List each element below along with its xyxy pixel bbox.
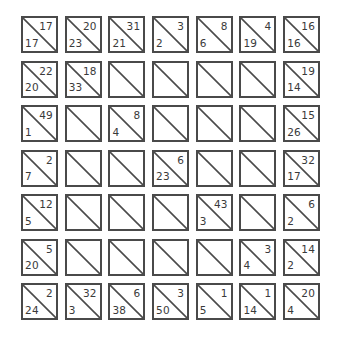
clue-top-right: 3: [177, 288, 184, 299]
clue-top-right: 32: [301, 155, 315, 166]
grid-cell-r1-c5[interactable]: 86: [196, 16, 233, 53]
clue-top-right: 15: [301, 110, 315, 121]
grid-cell-r3-c5[interactable]: [196, 105, 233, 142]
grid-cell-r4-c6[interactable]: [239, 150, 276, 187]
diagonal-divider-icon: [241, 152, 274, 185]
diagonal-divider-icon: [198, 152, 231, 185]
clue-bottom-left: 2: [156, 38, 163, 49]
clue-top-right: 3: [177, 21, 184, 32]
grid-cell-r7-c1[interactable]: 224: [21, 283, 58, 320]
clue-bottom-left: 5: [25, 216, 32, 227]
grid-cell-r4-c4[interactable]: 623: [152, 150, 189, 187]
puzzle-grid: 1717202331213286419161622201833191449184…: [21, 16, 320, 320]
grid-cell-r4-c3[interactable]: [108, 150, 145, 187]
clue-bottom-left: 17: [287, 171, 301, 182]
grid-cell-r7-c6[interactable]: 114: [239, 283, 276, 320]
grid-cell-r7-c4[interactable]: 350: [152, 283, 189, 320]
clue-bottom-left: 4: [287, 305, 294, 316]
clue-bottom-left: 17: [25, 38, 39, 49]
clue-bottom-left: 2: [287, 216, 294, 227]
grid-cell-r6-c4[interactable]: [152, 239, 189, 276]
grid-cell-r6-c5[interactable]: [196, 239, 233, 276]
clue-bottom-left: 38: [112, 305, 126, 316]
clue-bottom-left: 4: [112, 127, 119, 138]
grid-cell-r7-c5[interactable]: 15: [196, 283, 233, 320]
clue-bottom-left: 19: [243, 38, 257, 49]
grid-cell-r1-c1[interactable]: 1717: [21, 16, 58, 53]
grid-cell-r2-c5[interactable]: [196, 61, 233, 98]
grid-cell-r1-c7[interactable]: 1616: [283, 16, 320, 53]
grid-cell-r2-c7[interactable]: 1914: [283, 61, 320, 98]
clue-top-right: 22: [39, 66, 53, 77]
grid-cell-r3-c1[interactable]: 491: [21, 105, 58, 142]
grid-cell-r7-c2[interactable]: 323: [65, 283, 102, 320]
clue-top-right: 3: [265, 244, 272, 255]
grid-cell-r7-c3[interactable]: 638: [108, 283, 145, 320]
grid-cell-r4-c2[interactable]: [65, 150, 102, 187]
clue-bottom-left: 16: [287, 38, 301, 49]
clue-bottom-left: 23: [156, 171, 170, 182]
grid-cell-r6-c1[interactable]: 520: [21, 239, 58, 276]
clue-top-right: 6: [177, 155, 184, 166]
diagonal-divider-icon: [110, 196, 143, 229]
clue-bottom-left: 33: [69, 82, 83, 93]
grid-cell-r6-c2[interactable]: [65, 239, 102, 276]
grid-cell-r7-c7[interactable]: 204: [283, 283, 320, 320]
diagonal-divider-icon: [241, 196, 274, 229]
clue-top-right: 20: [301, 288, 315, 299]
grid-cell-r5-c4[interactable]: [152, 194, 189, 231]
grid-cell-r1-c6[interactable]: 419: [239, 16, 276, 53]
grid-cell-r6-c3[interactable]: [108, 239, 145, 276]
grid-cell-r5-c1[interactable]: 125: [21, 194, 58, 231]
clue-bottom-left: 2: [287, 260, 294, 271]
clue-top-right: 43: [214, 199, 228, 210]
grid-cell-r2-c3[interactable]: [108, 61, 145, 98]
grid-cell-r2-c4[interactable]: [152, 61, 189, 98]
grid-cell-r1-c4[interactable]: 32: [152, 16, 189, 53]
grid-cell-r2-c1[interactable]: 2220: [21, 61, 58, 98]
clue-top-right: 6: [308, 199, 315, 210]
grid-cell-r3-c6[interactable]: [239, 105, 276, 142]
grid-cell-r1-c3[interactable]: 3121: [108, 16, 145, 53]
clue-top-right: 8: [221, 21, 228, 32]
grid-cell-r5-c5[interactable]: 433: [196, 194, 233, 231]
grid-cell-r4-c5[interactable]: [196, 150, 233, 187]
diagonal-divider-icon: [110, 152, 143, 185]
clue-top-right: 12: [39, 199, 53, 210]
grid-cell-r6-c6[interactable]: 34: [239, 239, 276, 276]
clue-bottom-left: 20: [25, 260, 39, 271]
grid-cell-r3-c2[interactable]: [65, 105, 102, 142]
diagonal-divider-icon: [67, 241, 100, 274]
grid-cell-r2-c6[interactable]: [239, 61, 276, 98]
diagonal-divider-icon: [67, 107, 100, 140]
clue-bottom-left: 3: [69, 305, 76, 316]
clue-bottom-left: 26: [287, 127, 301, 138]
clue-top-right: 20: [83, 21, 97, 32]
grid-cell-r6-c7[interactable]: 142: [283, 239, 320, 276]
clue-bottom-left: 14: [287, 82, 301, 93]
clue-top-right: 5: [46, 244, 53, 255]
grid-cell-r3-c4[interactable]: [152, 105, 189, 142]
grid-cell-r2-c2[interactable]: 1833: [65, 61, 102, 98]
diagonal-divider-icon: [67, 152, 100, 185]
grid-cell-r5-c3[interactable]: [108, 194, 145, 231]
grid-cell-r4-c1[interactable]: 27: [21, 150, 58, 187]
grid-cell-r5-c7[interactable]: 62: [283, 194, 320, 231]
clue-bottom-left: 20: [25, 82, 39, 93]
grid-cell-r5-c6[interactable]: [239, 194, 276, 231]
grid-cell-r1-c2[interactable]: 2023: [65, 16, 102, 53]
clue-bottom-left: 1: [25, 127, 32, 138]
grid-cell-r3-c7[interactable]: 1526: [283, 105, 320, 142]
grid-cell-r5-c2[interactable]: [65, 194, 102, 231]
grid-cell-r4-c7[interactable]: 3217: [283, 150, 320, 187]
diagonal-divider-icon: [198, 63, 231, 96]
grid-cell-r3-c3[interactable]: 84: [108, 105, 145, 142]
clue-bottom-left: 21: [112, 38, 126, 49]
clue-top-right: 2: [46, 155, 53, 166]
clue-top-right: 49: [39, 110, 53, 121]
diagonal-divider-icon: [110, 241, 143, 274]
diagonal-divider-icon: [110, 63, 143, 96]
clue-top-right: 17: [39, 21, 53, 32]
clue-bottom-left: 24: [25, 305, 39, 316]
diagonal-divider-icon: [241, 107, 274, 140]
